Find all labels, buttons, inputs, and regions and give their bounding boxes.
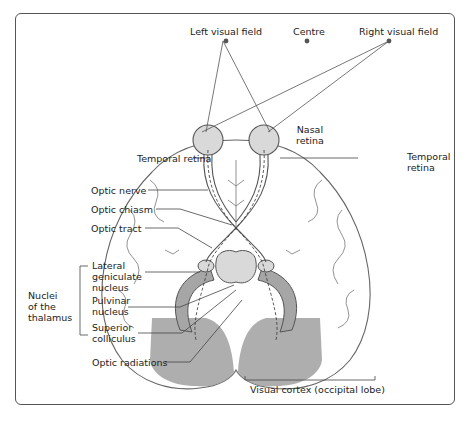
label-nuclei-of-thalamus: Nuclei of the thalamus (28, 290, 72, 323)
label-visual-cortex: Visual cortex (occipital lobe) (250, 384, 385, 395)
visual-field-rays (202, 41, 389, 132)
label-lateral-geniculate-nucleus: Lateral geniculate nucleus (92, 260, 142, 293)
thalamus-bracket (80, 266, 88, 335)
label-centre: Centre (293, 26, 325, 37)
visual-pathway-diagram (0, 0, 474, 421)
label-optic-radiations: Optic radiations (92, 357, 167, 368)
label-temporal-retina-left: Temporal retina (137, 153, 211, 164)
label-optic-tract: Optic tract (91, 223, 142, 234)
label-optic-chiasm: Optic chiasm (91, 204, 153, 215)
label-optic-nerve: Optic nerve (91, 185, 146, 196)
label-superior-colliculus: Superior colliculus (92, 322, 136, 344)
visual-field-points (224, 39, 392, 44)
label-temporal-retina-right: Temporal retina (407, 151, 451, 173)
label-pulvinar-nucleus: Pulvinar nucleus (92, 295, 130, 317)
label-right-visual-field: Right visual field (359, 26, 438, 37)
label-nasal-retina: Nasal retina (296, 124, 324, 146)
label-left-visual-field: Left visual field (190, 26, 262, 37)
